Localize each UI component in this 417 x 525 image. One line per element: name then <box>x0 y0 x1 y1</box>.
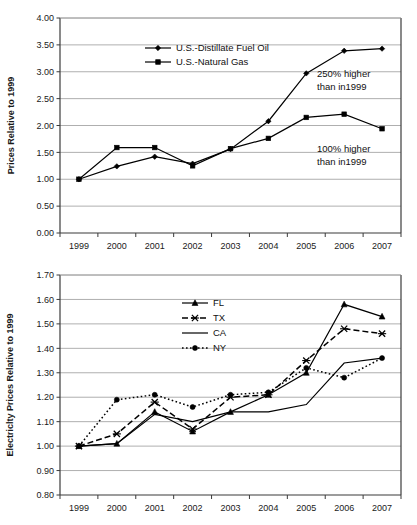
ytick-label: 3.50 <box>36 40 54 50</box>
ytick-label: 1.00 <box>36 174 54 184</box>
chart-fuel-prices: 0.000.501.001.502.002.503.003.504.001999… <box>0 0 417 262</box>
annot-250-line2: than in1999 <box>317 81 367 92</box>
data-point-u-s-distillate-fuel-oil-8 <box>379 46 384 51</box>
legend-item-ca: CA <box>182 327 227 338</box>
data-point-u-s-distillate-fuel-oil-2 <box>152 154 157 159</box>
ytick-label: 0.80 <box>36 490 54 500</box>
xtick-label-1999: 1999 <box>69 241 89 251</box>
figure-page: 0.000.501.001.502.002.503.003.504.001999… <box>0 0 417 525</box>
legend: U.S.-Distillate Fuel OilU.S.-Natural Gas <box>145 42 269 67</box>
ytick-label: 1.00 <box>36 441 54 451</box>
ytick-label: 1.30 <box>36 368 54 378</box>
ytick-label: 1.50 <box>36 319 54 329</box>
data-point-ny-4 <box>228 392 233 397</box>
data-point-tx-6 <box>302 357 310 363</box>
data-point-ny-legend <box>193 346 198 351</box>
xtick-label-2005: 2005 <box>296 503 316 513</box>
legend-item-u-s-distillate-fuel-oil: U.S.-Distillate Fuel Oil <box>145 42 269 53</box>
data-point-tx-1 <box>113 431 121 437</box>
xtick-label-2003: 2003 <box>220 503 240 513</box>
legend: FLTXCANY <box>182 297 227 353</box>
series-fl <box>76 301 385 448</box>
data-point-ny-7 <box>342 375 347 380</box>
legend-label-ny: NY <box>213 342 227 353</box>
xtick-label-2004: 2004 <box>258 241 278 251</box>
xtick-label-2000: 2000 <box>107 241 127 251</box>
data-point-u-s-natural-gas-0 <box>77 177 82 182</box>
legend-item-tx: TX <box>182 312 226 323</box>
data-point-ny-6 <box>304 365 309 370</box>
ytick-label: 2.50 <box>36 94 54 104</box>
ytick-label: 0.00 <box>36 228 54 238</box>
data-point-u-s-distillate-fuel-oil-7 <box>341 48 346 53</box>
data-point-u-s-natural-gas-4 <box>228 146 233 151</box>
electricity-prices-plot: 0.800.901.001.101.201.301.401.501.601.70… <box>0 263 417 525</box>
chart-electricity-prices: 0.800.901.001.101.201.301.401.501.601.70… <box>0 263 417 525</box>
xtick-label-2007: 2007 <box>372 241 392 251</box>
y-axis-title: Electriclty Prices Relative to 1999 <box>5 313 15 456</box>
xtick-label-2002: 2002 <box>183 503 203 513</box>
legend-label-tx: TX <box>213 312 226 323</box>
data-point-u-s-natural-gas-3 <box>190 164 195 169</box>
annot-250-line1: 250% higher <box>317 68 370 79</box>
ytick-label: 3.00 <box>36 67 54 77</box>
data-point-ny-0 <box>76 444 81 449</box>
xtick-label-2003: 2003 <box>220 241 240 251</box>
data-point-tx-8 <box>378 331 386 337</box>
data-point-fl-7 <box>341 301 347 307</box>
xtick-label-2005: 2005 <box>296 241 316 251</box>
y-axis-title: Prices Relative to 1999 <box>6 77 16 175</box>
annot-100-line1: 100% higher <box>317 143 370 154</box>
xtick-label-1999: 1999 <box>69 503 89 513</box>
annot-100-line2: than in1999 <box>317 156 367 167</box>
ytick-label: 1.40 <box>36 344 54 354</box>
ytick-label: 0.90 <box>36 466 54 476</box>
series-line-ca <box>79 358 382 446</box>
data-point-u-s-natural-gas-2 <box>152 145 157 150</box>
xtick-label-2007: 2007 <box>372 503 392 513</box>
xtick-label-2000: 2000 <box>107 503 127 513</box>
xtick-label-2001: 2001 <box>145 241 165 251</box>
data-point-fl-2 <box>152 409 158 415</box>
data-point-u-s-natural-gas-7 <box>342 112 347 117</box>
data-point-ny-2 <box>152 392 157 397</box>
annot-100: 100% higherthan in1999 <box>317 143 370 167</box>
xtick-label-2002: 2002 <box>183 241 203 251</box>
xtick-label-2006: 2006 <box>334 241 354 251</box>
data-point-u-s-distillate-fuel-oil-1 <box>114 164 119 169</box>
series-tx <box>75 326 386 450</box>
ytick-label: 1.10 <box>36 417 54 427</box>
data-point-ny-1 <box>114 397 119 402</box>
data-point-u-s-natural-gas-8 <box>380 126 385 131</box>
data-point-ny-8 <box>380 356 385 361</box>
ytick-label: 1.50 <box>36 148 54 158</box>
data-point-u-s-natural-gas-6 <box>304 115 309 120</box>
ytick-label: 1.60 <box>36 295 54 305</box>
xtick-label-2001: 2001 <box>145 503 165 513</box>
legend-label-u-s-distillate-fuel-oil: U.S.-Distillate Fuel Oil <box>176 42 269 53</box>
ytick-label: 1.70 <box>36 270 54 280</box>
data-point-u-s-natural-gas-5 <box>266 136 271 141</box>
legend-label-u-s-natural-gas: U.S.-Natural Gas <box>176 56 249 67</box>
xtick-label-2004: 2004 <box>258 503 278 513</box>
data-point-ny-5 <box>266 390 271 395</box>
fuel-prices-plot: 0.000.501.001.502.002.503.003.504.001999… <box>0 0 417 262</box>
ytick-label: 0.50 <box>36 201 54 211</box>
ytick-label: 4.00 <box>36 13 54 23</box>
legend-item-u-s-natural-gas: U.S.-Natural Gas <box>145 56 249 67</box>
series-ca <box>79 358 382 446</box>
ytick-label: 1.20 <box>36 392 54 402</box>
legend-label-fl: FL <box>213 297 224 308</box>
data-point-tx-2 <box>151 399 159 405</box>
ytick-label: 2.00 <box>36 121 54 131</box>
series-line-tx <box>79 329 382 446</box>
data-point-tx-legend <box>191 315 199 321</box>
legend-label-ca: CA <box>213 327 227 338</box>
annot-250: 250% higherthan in1999 <box>317 68 370 92</box>
data-point-tx-7 <box>340 326 348 332</box>
data-point-u-s-natural-gas-legend <box>156 60 161 65</box>
data-point-u-s-distillate-fuel-oil-legend <box>155 45 160 50</box>
xtick-label-2006: 2006 <box>334 503 354 513</box>
data-point-u-s-natural-gas-1 <box>115 145 120 150</box>
legend-item-ny: NY <box>182 342 227 353</box>
